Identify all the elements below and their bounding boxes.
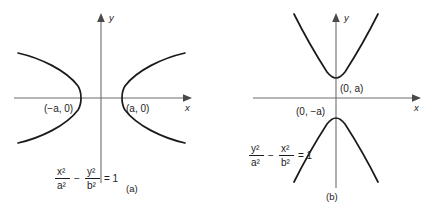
panel-a-eq-operator: −: [74, 173, 80, 184]
panel-a-eq-term1-numerator: x²: [57, 166, 66, 177]
panel-b-vertex-label-upper: (0, a): [340, 83, 363, 94]
panel-a: x y (−a, 0) (a, 0) x² a² − y² b² = 1 (a): [14, 12, 192, 194]
panel-b-eq-term1-numerator: y²: [251, 143, 260, 154]
panel-a-label: (a): [126, 183, 138, 194]
panel-a-vertex-label-right: (a, 0): [126, 103, 149, 114]
panel-b-eq-term1-denominator: a²: [251, 157, 261, 168]
panel-b: x y (0, a) (0, −a) y² a² − x² b² = 1 (b): [249, 12, 421, 202]
panel-a-eq-equals: = 1: [104, 173, 119, 184]
panel-a-equation: x² a² − y² b² = 1: [55, 166, 119, 191]
panel-a-vertex-label-left: (−a, 0): [44, 103, 73, 114]
figure-canvas: x y (−a, 0) (a, 0) x² a² − y² b² = 1 (a): [0, 0, 442, 213]
panel-a-x-axis-label: x: [184, 102, 191, 113]
panel-b-eq-equals: = 1: [298, 150, 313, 161]
panel-b-x-axis-label: x: [413, 102, 420, 113]
panel-a-eq-term2-denominator: b²: [87, 180, 97, 191]
panel-a-x-axis-arrowhead: [183, 94, 192, 102]
panel-b-y-axis-label: y: [343, 12, 350, 23]
panel-a-eq-term2-numerator: y²: [87, 166, 96, 177]
panel-b-eq-operator: −: [268, 150, 274, 161]
panel-b-y-axis-arrowhead: [332, 13, 340, 22]
panel-b-eq-term2-numerator: x²: [281, 143, 290, 154]
panel-b-label: (b): [326, 191, 338, 202]
panel-b-vertex-label-lower: (0, −a): [296, 106, 325, 117]
panel-a-y-axis-arrowhead: [97, 13, 105, 22]
panel-a-eq-term1-denominator: a²: [57, 180, 67, 191]
panel-b-eq-term2-denominator: b²: [281, 157, 291, 168]
panel-b-x-axis-arrowhead: [412, 94, 421, 102]
hyperbola-figure: x y (−a, 0) (a, 0) x² a² − y² b² = 1 (a): [0, 0, 442, 213]
panel-a-y-axis-label: y: [108, 12, 115, 23]
